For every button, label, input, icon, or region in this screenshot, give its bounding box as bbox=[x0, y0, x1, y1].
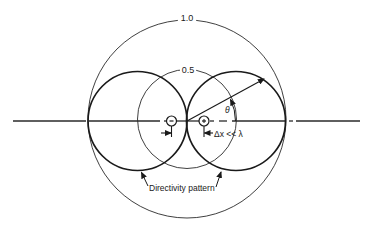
pattern-label: Directivity pattern bbox=[149, 183, 215, 193]
left-leader bbox=[142, 173, 149, 187]
left-source bbox=[167, 116, 177, 126]
angle-arc bbox=[231, 100, 236, 122]
angle-label: θ bbox=[225, 105, 230, 115]
directivity-diagram: 1.0 0.5 θ Δx << λ Directivity pattern bbox=[0, 0, 370, 232]
right-leader bbox=[216, 172, 221, 187]
outer-circle-label: 1.0 bbox=[181, 13, 194, 23]
spacing-label: Δx << λ bbox=[214, 129, 244, 139]
right-source bbox=[199, 116, 209, 126]
inner-circle-label: 0.5 bbox=[182, 65, 195, 75]
